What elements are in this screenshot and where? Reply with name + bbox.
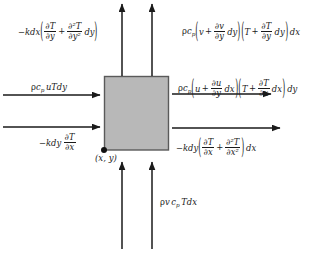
conduction-out-right-label: −kdy(∂T∂x+∂²T∂x²)dx [176, 138, 256, 157]
coordinate-label: (x, y) [95, 154, 117, 163]
paren-open-icon: ( [195, 21, 198, 42]
paren-close-icon: ) [282, 78, 285, 99]
paren-close-icon: ) [95, 21, 98, 42]
plus-operator: + [57, 26, 67, 36]
partial-T-partial-x-fraction: ∂T∂x [258, 79, 270, 98]
convection-out-top-label: ρcp(v+∂v∂ydy)(T+∂T∂ydy)dx [182, 22, 300, 41]
partial2-T-partial-y2-fraction: ∂²T∂y² [67, 22, 82, 41]
partial-T-partial-x-fraction: ∂T∂x [64, 133, 76, 152]
conduction-in-left-label: −kdy∂T∂x [39, 133, 76, 152]
figure-canvas: −kdx(∂T∂y+∂²T∂y²dy) ρcp(v+∂v∂ydy)(T+∂T∂y… [0, 0, 324, 253]
convection-out-right-label: ρcp(u+∂u∂ydx)(T+∂T∂xdx)dy [178, 79, 297, 98]
paren-close-icon: ) [285, 21, 288, 42]
partial-T-partial-y-fraction: ∂T∂y [261, 22, 273, 41]
partial2-T-partial-x2-fraction: ∂²T∂x² [225, 138, 240, 157]
paren-open-icon: ( [241, 21, 244, 42]
convection-in-left-label: ρcpuTdy [31, 83, 67, 94]
conduction-out-top-label: −kdx(∂T∂y+∂²T∂y²dy) [18, 22, 98, 41]
paren-open-icon: ( [191, 78, 194, 99]
paren-close-icon: ) [241, 137, 244, 158]
partial-T-partial-x-fraction: ∂T∂x [202, 138, 214, 157]
paren-open-icon: ( [40, 21, 43, 42]
paren-open-icon: ( [238, 78, 241, 99]
conduction-out-top-prefix: −kdx [18, 28, 40, 36]
partial-T-partial-y-fraction: ∂T∂y [44, 22, 56, 41]
paren-open-icon: ( [198, 137, 201, 158]
partial-v-partial-y-fraction: ∂v∂y [214, 22, 225, 41]
partial-u-partial-y-fraction: ∂u∂y [211, 79, 223, 98]
convection-in-bottom-label: ρvcpTdx [160, 198, 197, 209]
control-volume-element [105, 77, 169, 151]
